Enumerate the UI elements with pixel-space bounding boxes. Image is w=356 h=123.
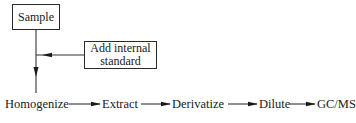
extract-label: Extract <box>102 97 138 111</box>
homogenize-label: Homogenize <box>5 97 69 111</box>
down-arrow-icon <box>34 67 39 77</box>
dilute-label: Dilute <box>259 97 290 111</box>
left-arrow-icon <box>42 53 52 57</box>
sample-label: Sample <box>18 11 54 24</box>
gcms-label: GC/MS <box>317 97 356 111</box>
derivatize-label: Derivatize <box>172 97 224 111</box>
internal-standard-box: Add internal standard <box>84 41 157 69</box>
internal-standard-line2: standard <box>100 55 141 68</box>
sample-box: Sample <box>12 4 60 30</box>
